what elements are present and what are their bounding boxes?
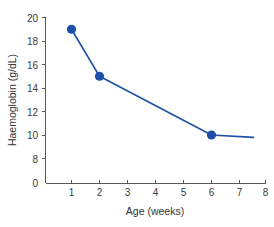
x-axis-title: Age (weeks) bbox=[126, 205, 184, 217]
x-tick-label-1: 1 bbox=[69, 187, 75, 198]
x-tick-label-6: 6 bbox=[209, 187, 215, 198]
y-tick-label-16: 16 bbox=[27, 60, 39, 71]
x-tick-label-8: 8 bbox=[263, 187, 269, 198]
x-tick-label-2: 2 bbox=[97, 187, 103, 198]
y-tick-label-20: 20 bbox=[27, 13, 39, 24]
x-tick-label-5: 5 bbox=[181, 187, 187, 198]
y-tick-label-8: 8 bbox=[32, 154, 38, 165]
data-point-week-6[interactable] bbox=[207, 130, 216, 139]
y-tick-label-0: 0 bbox=[32, 178, 38, 189]
data-point-week-1[interactable] bbox=[67, 25, 76, 34]
chart-figure: 20 18 16 14 12 10 8 0 1 2 3 4 5 6 bbox=[0, 0, 274, 227]
x-tick-label-4: 4 bbox=[153, 187, 159, 198]
chart-background bbox=[0, 0, 274, 227]
x-tick-label-7: 7 bbox=[237, 187, 243, 198]
y-axis-title: Haemoglobin (g/dL) bbox=[6, 54, 18, 146]
y-tick-label-18: 18 bbox=[27, 36, 39, 47]
data-point-week-2[interactable] bbox=[95, 72, 104, 81]
y-tick-label-10: 10 bbox=[27, 130, 39, 141]
line-chart: 20 18 16 14 12 10 8 0 1 2 3 4 5 6 bbox=[0, 0, 274, 227]
x-tick-label-3: 3 bbox=[125, 187, 131, 198]
y-tick-label-14: 14 bbox=[27, 83, 39, 94]
y-tick-label-12: 12 bbox=[27, 107, 39, 118]
